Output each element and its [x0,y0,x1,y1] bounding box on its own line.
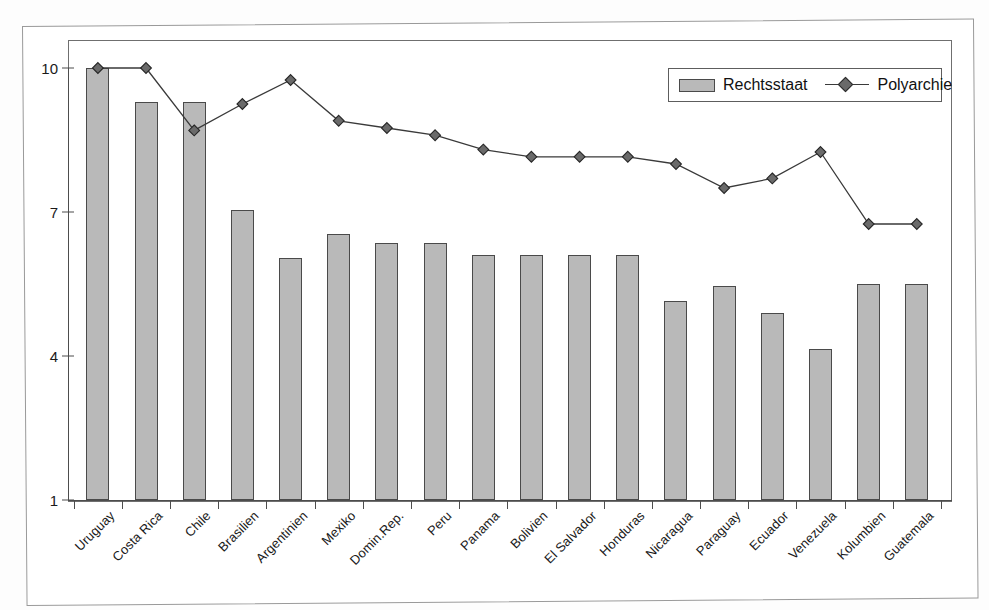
x-tick-mark [459,500,460,509]
x-axis-label: Mexiko [318,508,358,548]
y-tick-mark [62,212,74,213]
bar [857,284,880,500]
x-axis-label: Chile [182,508,214,540]
bar [568,255,591,500]
x-tick-mark [893,500,894,509]
y-tick-label: 4 [50,349,58,364]
x-tick-mark [507,500,508,509]
chart-legend: Rechtsstaat Polyarchie [668,68,942,102]
x-tick-mark [941,500,942,509]
x-axis-label: Bolivien [508,508,551,551]
x-axis-label: Brasilien [215,508,262,555]
y-tick-label: 1 [50,493,58,508]
x-axis-label: Argentinien [252,508,310,566]
x-axis-label: Panama [458,508,503,553]
x-axis-label: Ecuador [747,508,792,553]
x-tick-mark [652,500,653,509]
x-tick-mark [748,500,749,509]
y-tick-label: 10 [41,61,58,76]
bar [279,258,302,500]
y-tick-mark [62,68,74,69]
x-tick-mark [170,500,171,509]
y-axis-line [68,68,69,500]
x-axis-label: Costa Rica [109,508,165,564]
bar [809,349,832,500]
bar [761,313,784,500]
x-tick-mark [122,500,123,509]
bar [327,234,350,500]
legend-line-diamond-icon [825,79,869,91]
bar [424,243,447,500]
bar [520,255,543,500]
bar [905,284,928,500]
bar [664,301,687,500]
bar [135,102,158,500]
bar [375,243,398,500]
bar [231,210,254,500]
y-tick-mark [62,356,74,357]
x-tick-mark [218,500,219,509]
x-tick-mark [796,500,797,509]
x-axis-label: Honduras [596,508,647,559]
x-tick-mark [266,500,267,509]
x-tick-mark [315,500,316,509]
x-tick-mark [604,500,605,509]
bar [86,68,109,500]
x-axis-label: Nicaragua [642,508,695,561]
x-tick-mark [556,500,557,509]
x-tick-mark [845,500,846,509]
legend-entry-rechtsstaat: Rechtsstaat [679,76,807,94]
legend-label-polyarchie: Polyarchie [877,76,952,94]
bar [472,255,495,500]
x-tick-mark [363,500,364,509]
bar [183,102,206,500]
x-tick-mark [700,500,701,509]
y-tick-mark [62,500,74,501]
x-axis-label: Uruguay [72,508,118,554]
legend-entry-polyarchie: Polyarchie [825,76,952,94]
chart-figure: 14710 UruguayCosta RicaChileBrasilienArg… [0,0,989,610]
x-axis-line [68,500,952,501]
x-axis-label: Guatemala [880,508,936,564]
legend-bar-swatch-icon [679,79,715,92]
x-axis-label: Peru [424,508,454,538]
x-axis-label: Kolumbien [834,508,889,563]
legend-label-rechtsstaat: Rechtsstaat [723,76,807,94]
x-tick-mark [74,500,75,509]
x-axis-label: Venezuela [786,508,840,562]
y-tick-label: 7 [50,205,58,220]
x-tick-mark [411,500,412,509]
bar [713,286,736,500]
x-axis-label: Paraguay [693,508,744,559]
bar [616,255,639,500]
